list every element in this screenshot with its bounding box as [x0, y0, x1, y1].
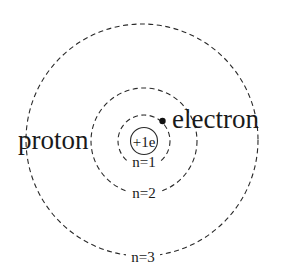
- bohr-model-diagram: +1e electron proton n=1 n=2 n=3: [0, 0, 282, 277]
- electron-dot: [159, 118, 165, 124]
- nucleus: +1e: [131, 128, 158, 155]
- orbit-n2-label: n=2: [132, 185, 155, 201]
- proton-label: proton: [18, 125, 89, 155]
- electron: [159, 118, 165, 124]
- orbit-n1-label: n=1: [132, 154, 155, 170]
- electron-label: electron: [172, 104, 259, 134]
- orbit-n3-label: n=3: [131, 249, 154, 265]
- nucleus-charge-label: +1e: [133, 134, 156, 150]
